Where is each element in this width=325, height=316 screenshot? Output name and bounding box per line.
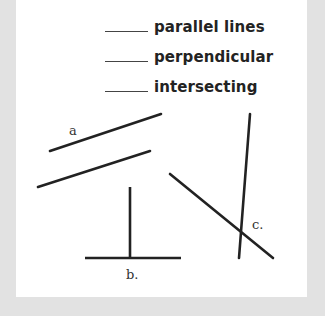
figure-b-perpendicular (85, 187, 181, 258)
parallel-line-1 (50, 114, 161, 151)
parallel-line-2 (38, 151, 150, 187)
figure-c-intersecting (170, 114, 273, 258)
intersecting-line-2 (170, 174, 273, 258)
figure-b-label: b. (126, 267, 138, 282)
figure-a-parallel (38, 114, 161, 187)
line-figures: a b. c. (0, 0, 325, 316)
figure-a-label: a (69, 123, 77, 138)
figure-c-label: c. (252, 217, 263, 232)
